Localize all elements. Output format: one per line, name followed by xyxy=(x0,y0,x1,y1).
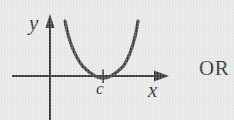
parabola-curve xyxy=(65,21,138,78)
figure-container: y x c OR xyxy=(0,0,234,120)
or-annotation-text: OR xyxy=(199,58,229,79)
y-axis-label: y xyxy=(29,13,38,34)
x-axis-label: x xyxy=(148,80,157,101)
tick-label-c: c xyxy=(96,80,104,97)
y-axis-arrowhead-icon xyxy=(45,14,54,28)
